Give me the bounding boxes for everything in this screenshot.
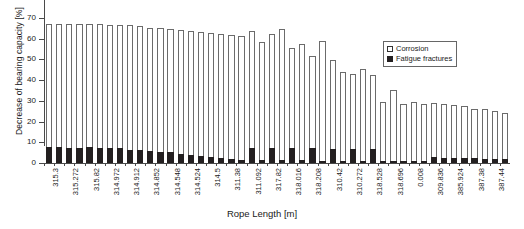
bar-segment-fatigue-fractures [167, 152, 173, 163]
bar-group [502, 113, 508, 163]
x-tick [247, 163, 248, 166]
bar-group [137, 26, 143, 163]
x-tick [388, 163, 389, 166]
bar-segment-fatigue-fractures [198, 156, 204, 163]
x-tick [348, 163, 349, 166]
y-tick-label: 10 [27, 138, 36, 146]
x-tick [186, 163, 187, 166]
bar-group [218, 34, 224, 163]
x-tick [307, 163, 308, 166]
bar-segment-corrosion [380, 102, 386, 161]
y-tick-label: 40 [27, 76, 36, 84]
bar-segment-corrosion [441, 104, 447, 158]
bar-segment-fatigue-fractures [482, 159, 488, 163]
bar-group [340, 72, 346, 163]
x-tick-label: 315.3 [52, 168, 60, 187]
x-tick-label: 318.696 [397, 168, 405, 195]
bar-group [188, 31, 194, 163]
legend-swatch-corrosion-icon [387, 46, 393, 52]
bar-segment-corrosion [471, 109, 477, 159]
x-tick [236, 163, 237, 166]
bar-segment-corrosion [46, 24, 52, 147]
y-axis-title: Decrease of bearing capacity [%] [14, 0, 24, 146]
bar-segment-corrosion [167, 29, 173, 152]
y-tick-label: 60 [27, 35, 36, 43]
bar-segment-corrosion [421, 104, 427, 161]
bar-segment-corrosion [147, 28, 153, 151]
bar-segment-corrosion [86, 24, 92, 147]
bar-segment-fatigue-fractures [97, 148, 103, 163]
x-tick [226, 163, 227, 166]
bar-group [330, 60, 336, 163]
x-tick [459, 163, 460, 166]
x-tick [145, 163, 146, 166]
bar-segment-fatigue-fractures [492, 159, 498, 163]
x-tick-label: 387.38 [478, 168, 486, 191]
x-tick [490, 163, 491, 166]
legend-swatch-fatigue-icon [387, 56, 393, 62]
bar-segment-fatigue-fractures [451, 158, 457, 163]
x-tick [216, 163, 217, 166]
bar-segment-fatigue-fractures [178, 154, 184, 163]
bar-group [370, 75, 376, 163]
bar-segment-corrosion [157, 28, 163, 151]
bar-group [411, 102, 417, 163]
x-tick [74, 163, 75, 166]
x-tick-label: 311.38 [234, 168, 242, 190]
bar-segment-corrosion [411, 102, 417, 161]
bar-segment-fatigue-fractures [340, 161, 346, 163]
bar-group [390, 90, 396, 163]
bar-group [76, 24, 82, 163]
bar-segment-fatigue-fractures [330, 149, 336, 164]
bar-group [208, 33, 214, 163]
x-tick [297, 163, 298, 166]
bar-group [360, 69, 366, 163]
bar-group [471, 109, 477, 163]
x-tick-label: 314.524 [194, 168, 202, 195]
x-tick [257, 163, 258, 166]
x-tick [206, 163, 207, 166]
bar-segment-corrosion [198, 32, 204, 156]
bar-segment-fatigue-fractures [157, 152, 163, 163]
y-tick-label: 50 [27, 55, 36, 63]
bar-segment-corrosion [97, 24, 103, 147]
x-tick [480, 163, 481, 166]
x-tick-label: 318.528 [376, 168, 384, 195]
x-tick [95, 163, 96, 166]
x-axis-title: Rope Length [m] [0, 208, 524, 219]
bar-chart: Decrease of bearing capacity [%] 0102030… [0, 0, 524, 229]
bar-segment-fatigue-fractures [238, 160, 244, 163]
bar-segment-corrosion [218, 34, 224, 158]
bar-segment-corrosion [117, 25, 123, 148]
x-tick [429, 163, 430, 166]
x-tick-label: 310.42 [336, 168, 344, 191]
plot-area: 010203040506070 [44, 18, 510, 163]
bar-group [269, 34, 275, 163]
bar-segment-fatigue-fractures [431, 157, 437, 163]
bar-segment-fatigue-fractures [66, 148, 72, 163]
x-tick [287, 163, 288, 166]
bar-segment-fatigue-fractures [218, 158, 224, 163]
bar-segment-corrosion [66, 24, 72, 147]
bar-group [421, 104, 427, 163]
legend-label-corrosion: Corrosion [396, 44, 429, 54]
x-tick-label: 314.912 [133, 168, 141, 195]
bar-segment-fatigue-fractures [259, 160, 265, 163]
x-tick [469, 163, 470, 166]
bar-group [492, 111, 498, 163]
x-tick-label: 311.092 [255, 168, 263, 195]
bar-segment-corrosion [289, 48, 295, 148]
bar-segment-fatigue-fractures [107, 148, 113, 163]
x-tick-label: 315.272 [72, 168, 80, 195]
x-tick-label: 317.82 [275, 168, 283, 191]
bar-group [279, 29, 285, 163]
bar-segment-corrosion [208, 33, 214, 156]
x-tick [166, 163, 167, 166]
bar-segment-fatigue-fractures [86, 147, 92, 163]
bar-group [178, 30, 184, 163]
x-tick-label: 318.016 [295, 168, 303, 195]
bar-segment-corrosion [299, 44, 305, 160]
legend-item-corrosion: Corrosion [387, 44, 452, 54]
bar-segment-fatigue-fractures [56, 147, 62, 163]
x-tick [196, 163, 197, 166]
